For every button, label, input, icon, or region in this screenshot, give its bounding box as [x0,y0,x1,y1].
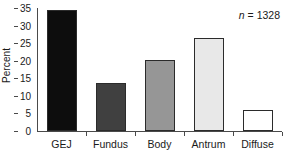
x-axis-line [37,131,282,132]
bar-body [145,60,175,131]
y-axis-tick-mark [14,43,18,44]
y-axis-tick-mark [14,113,18,114]
bar-fundus [96,83,126,131]
y-axis-tick-label: 5 [25,108,31,119]
bar-chart-figure: Percent 05101520253035 GEJFundusBodyAntr… [0,0,288,164]
y-axis-title-text: Percent [2,47,13,82]
x-axis-tick-mark [86,132,87,136]
y-axis-tick-label: 10 [20,90,31,101]
y-axis-tick-label: 35 [20,3,31,14]
x-axis-label-fundus: Fundus [93,138,128,150]
x-axis-category-labels: GEJFundusBodyAntrumDiffuse [37,138,282,154]
sample-size-value: = 1328 [245,9,280,21]
x-axis-tick-mark [135,132,136,136]
y-axis-line [37,8,38,132]
y-axis-tick-label: 0 [25,126,31,137]
y-axis-tick-label: 15 [20,73,31,84]
y-axis-tick-mark [14,8,18,9]
y-axis-title: Percent [0,0,14,130]
x-axis-tick-mark [184,132,185,136]
bar-gej [47,10,77,131]
x-axis-tick-mark [282,132,283,136]
y-axis-tick-labels: 05101520253035 [14,0,34,132]
plot-area [37,8,282,132]
y-axis-tick-label: 25 [20,38,31,49]
bar-diffuse [243,110,273,131]
bar-antrum [194,38,224,131]
y-axis-tick-label: 30 [20,20,31,31]
x-axis-tick-mark [233,132,234,136]
sample-size-annotation: n = 1328 [239,9,280,21]
x-axis-label-body: Body [148,138,172,150]
y-axis-tick-mark [14,131,18,132]
x-axis-label-antrum: Antrum [192,138,226,150]
y-axis-tick-mark [14,61,18,62]
y-axis-tick-mark [14,96,18,97]
x-axis-label-gej: GEJ [51,138,71,150]
y-axis-tick-mark [14,26,18,27]
y-axis-tick-label: 20 [20,55,31,66]
x-axis-label-diffuse: Diffuse [241,138,274,150]
y-axis-tick-mark [14,78,18,79]
